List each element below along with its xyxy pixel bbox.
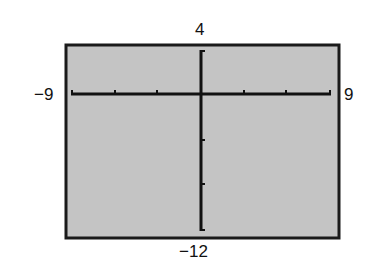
calculator-graph-screen (0, 0, 376, 268)
